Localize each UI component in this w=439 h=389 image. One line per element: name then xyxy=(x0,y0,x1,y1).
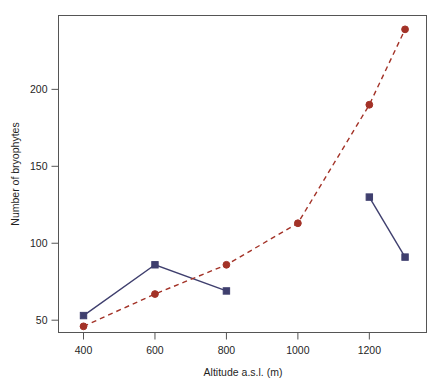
series-line xyxy=(369,197,405,257)
x-tick-label: 800 xyxy=(218,344,236,356)
y-tick-label: 150 xyxy=(30,160,48,172)
x-tick-label: 1200 xyxy=(358,344,382,356)
data-point-marker xyxy=(152,291,159,298)
x-tick-label: 1000 xyxy=(286,344,310,356)
data-point-marker xyxy=(366,194,372,200)
x-tick-label: 600 xyxy=(146,344,164,356)
x-tick-label: 400 xyxy=(75,344,93,356)
data-point-marker xyxy=(152,262,158,268)
y-tick-label: 200 xyxy=(30,83,48,95)
data-point-marker xyxy=(80,312,86,318)
figure-title xyxy=(0,0,439,6)
data-point-marker xyxy=(366,101,373,108)
x-axis: 40060080010001200 xyxy=(75,333,381,356)
plot-frame xyxy=(59,16,427,333)
data-point-marker xyxy=(223,261,230,268)
chart-figure: 40060080010001200 50100150200 Altitude a… xyxy=(0,0,439,389)
data-point-marker xyxy=(294,220,301,227)
chart-canvas: 40060080010001200 50100150200 Altitude a… xyxy=(0,0,439,389)
data-point-marker xyxy=(80,323,87,330)
data-point-marker xyxy=(223,288,229,294)
data-point-marker xyxy=(402,26,409,33)
series-blue-series-upper xyxy=(366,194,408,260)
y-tick-label: 50 xyxy=(36,314,48,326)
data-point-marker xyxy=(402,254,408,260)
y-axis: 50100150200 xyxy=(30,83,59,326)
y-axis-label: Number of bryophytes xyxy=(9,122,21,225)
data-series-group xyxy=(80,26,408,330)
x-axis-label: Altitude a.s.l. (m) xyxy=(204,366,283,378)
series-red-series xyxy=(80,26,408,330)
y-tick-label: 100 xyxy=(30,237,48,249)
